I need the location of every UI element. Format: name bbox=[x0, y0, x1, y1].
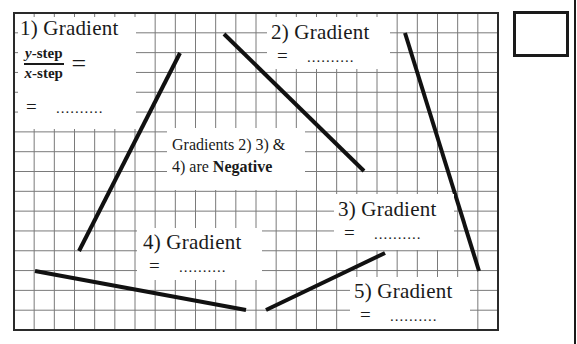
gradient-4-answer-blank[interactable]: =.......... bbox=[137, 255, 262, 277]
gradient-1-answer-blank[interactable]: =.......... bbox=[18, 96, 136, 118]
fraction-denominator-var: x bbox=[25, 65, 33, 81]
answer-dots: .......... bbox=[390, 308, 438, 324]
gradient-1-title: 1) Gradient bbox=[18, 17, 136, 39]
equals-sign: = bbox=[277, 45, 307, 67]
gradient-label-3: 3) Gradient =.......... bbox=[334, 194, 454, 250]
note-line-2: 4) are Negative bbox=[172, 156, 305, 178]
gradient-3-answer-blank[interactable]: =.......... bbox=[334, 222, 454, 244]
fraction-numerator: -step bbox=[32, 45, 63, 61]
y-step-over-x-step-fraction: y-step x-step bbox=[24, 45, 64, 82]
page-right-border bbox=[574, 0, 576, 344]
answer-dots: .......... bbox=[179, 259, 227, 275]
fraction-numerator-var: y bbox=[25, 45, 32, 61]
gradient-4-title: 4) Gradient bbox=[137, 228, 262, 253]
gradient-label-2: 2) Gradient =.......... bbox=[267, 17, 390, 69]
gradient-5-answer-blank[interactable]: =.......... bbox=[350, 304, 470, 326]
equals-sign: = bbox=[360, 304, 390, 326]
equals-sign: = bbox=[26, 96, 56, 118]
note-line-2-prefix: 4) are bbox=[172, 158, 213, 175]
fraction-denominator: -step bbox=[32, 65, 63, 81]
gradient-label-4: 4) Gradient =.......... bbox=[137, 228, 262, 280]
gradient-2-answer-blank[interactable]: =.......... bbox=[267, 45, 390, 67]
equals-sign: = bbox=[149, 255, 179, 277]
answer-dots: .......... bbox=[56, 100, 104, 116]
gradient-5-title: 5) Gradient bbox=[350, 277, 470, 302]
equals-sign: = bbox=[344, 222, 374, 244]
gradient-label-5: 5) Gradient =.......... bbox=[350, 277, 470, 329]
note-line-1: Gradients 2) 3) & bbox=[172, 134, 305, 156]
note-negative-bold: Negative bbox=[213, 158, 273, 175]
gradient-3-title: 3) Gradient bbox=[334, 194, 454, 220]
answer-dots: .......... bbox=[374, 226, 422, 242]
gradient-2-title: 2) Gradient bbox=[267, 17, 390, 43]
answer-dots: .......... bbox=[307, 49, 355, 65]
gradient-label-1: 1) Gradient y-step x-step = =.......... bbox=[18, 17, 136, 129]
score-answer-box[interactable] bbox=[513, 11, 569, 57]
fraction-equals: = bbox=[72, 49, 87, 78]
negative-gradients-note: Gradients 2) 3) & 4) are Negative bbox=[167, 128, 305, 190]
gradient-formula: y-step x-step = bbox=[18, 45, 136, 82]
